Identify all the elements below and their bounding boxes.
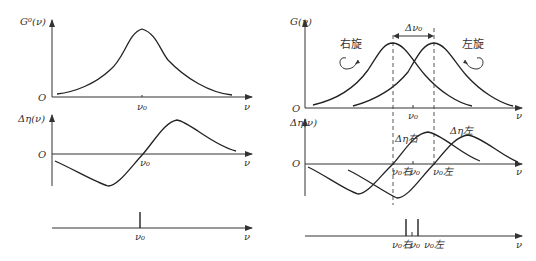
origin-label: O (38, 92, 46, 103)
left-middle-plot: Δη(ν) O ν ν₀ (17, 113, 252, 186)
y-label: Δη(ν) (17, 113, 45, 124)
x-label: ν (516, 239, 522, 250)
origin-label: O (38, 149, 46, 160)
curve-left-label: Δη左 (449, 125, 474, 136)
x-label: ν (516, 110, 522, 121)
y-label: G(ν) (290, 16, 312, 27)
clockwise-arrow-icon (340, 58, 358, 69)
y-label: G⁰(ν) (20, 16, 46, 27)
delta-label: Δν₀ (404, 22, 422, 33)
tick-center-label: ν₀ (410, 166, 420, 177)
tick-left-label: ν₀左 (433, 166, 454, 177)
left-bottom-plot: ν₀ ν (52, 212, 252, 242)
x-label: ν (516, 166, 522, 177)
tick-label: ν₀ (408, 110, 418, 121)
y-label: Δη(ν) (289, 117, 317, 128)
tick-left-label: ν₀左 (424, 239, 445, 250)
counterclockwise-arrow-icon (465, 58, 483, 69)
dispersion-curve (55, 120, 236, 186)
arrow-head-right (428, 33, 434, 39)
right-bottom-plot: ν₀右 ν₀ ν₀左 ν (305, 219, 522, 250)
origin-label: O (292, 158, 300, 169)
tick-center-label: ν₀ (410, 239, 420, 250)
tick-label: ν₀ (140, 157, 150, 168)
right-rotation-label: 右旋 (340, 37, 362, 51)
zeeman-diagram: G⁰(ν) O ν ν₀ Δη(ν) O ν ν₀ ν₀ ν Δν₀ (0, 0, 536, 261)
left-rotation-label: 左旋 (462, 37, 484, 51)
right-middle-plot: Δη(ν) O ν Δη右 Δη左 ν₀右 ν₀ ν₀左 (289, 117, 522, 198)
x-label: ν (244, 157, 250, 168)
left-top-plot: G⁰(ν) O ν ν₀ (20, 16, 252, 112)
x-label: ν (244, 101, 250, 112)
tick-label: ν₀ (137, 101, 147, 112)
left-rotation-curve (353, 43, 513, 106)
tick-label: ν₀ (135, 231, 145, 242)
x-label: ν (244, 231, 250, 242)
lorentz-curve (57, 29, 232, 95)
arrow-head-left (393, 33, 399, 39)
origin-label: O (292, 103, 300, 114)
curve-right-label: Δη右 (394, 133, 420, 144)
